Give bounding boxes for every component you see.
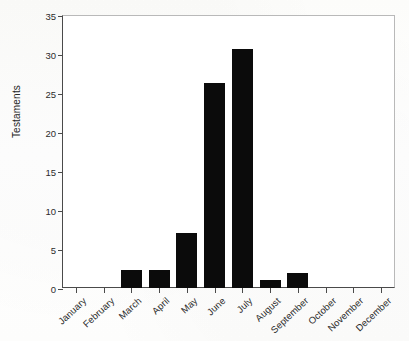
x-axis-tick-mark bbox=[131, 288, 132, 293]
y-axis-tick-mark bbox=[58, 94, 63, 95]
bar[interactable] bbox=[121, 270, 142, 288]
y-axis-tick: 5 bbox=[51, 241, 63, 259]
x-axis-tick-mark bbox=[353, 288, 354, 293]
y-axis-tick-label: 20 bbox=[45, 128, 56, 139]
bar[interactable] bbox=[176, 233, 197, 288]
x-axis-tick-label-text: May bbox=[179, 295, 200, 315]
y-axis-tick-label: 25 bbox=[45, 89, 56, 100]
x-axis-tick-mark bbox=[298, 288, 299, 293]
bar[interactable] bbox=[232, 49, 253, 288]
y-axis-tick: 10 bbox=[45, 202, 63, 220]
x-axis-tick-mark bbox=[104, 288, 105, 293]
y-axis-tick-mark bbox=[58, 133, 63, 134]
x-axis-tick-mark bbox=[326, 288, 327, 293]
y-axis-tick-label: 15 bbox=[45, 167, 56, 178]
x-axis-tick-label: April bbox=[150, 295, 172, 316]
bar[interactable] bbox=[287, 273, 308, 288]
y-axis-tick-label: 35 bbox=[45, 11, 56, 22]
y-axis-tick-label: 5 bbox=[51, 245, 56, 256]
plot-area: 05101520253035 bbox=[62, 15, 395, 288]
bar[interactable] bbox=[149, 270, 170, 288]
y-axis-tick: 35 bbox=[45, 7, 63, 25]
y-axis-tick-label: 10 bbox=[45, 206, 56, 217]
y-axis-tick: 25 bbox=[45, 85, 63, 103]
y-axis-tick-mark bbox=[58, 211, 63, 212]
y-axis-tick-mark bbox=[58, 289, 63, 290]
bar[interactable] bbox=[204, 83, 225, 288]
y-axis-tick-mark bbox=[58, 16, 63, 17]
y-axis-tick: 0 bbox=[51, 280, 63, 298]
y-axis-title: Testaments bbox=[11, 52, 22, 172]
x-axis-tick-mark bbox=[242, 288, 243, 293]
x-axis-tick-label-text: July bbox=[235, 295, 255, 315]
y-axis-tick: 15 bbox=[45, 163, 63, 181]
x-axis-tick-mark bbox=[270, 288, 271, 293]
x-axis-tick-label-text: April bbox=[150, 295, 172, 316]
y-axis-tick: 20 bbox=[45, 124, 63, 142]
x-axis-tick-label: May bbox=[179, 295, 200, 315]
x-axis-tick-mark bbox=[381, 288, 382, 293]
x-axis-tick-mark bbox=[187, 288, 188, 293]
x-axis-tick-label: July bbox=[235, 295, 255, 315]
bar-slot bbox=[229, 15, 257, 288]
bar[interactable] bbox=[260, 280, 281, 288]
x-axis-tick-mark bbox=[159, 288, 160, 293]
y-axis-tick-mark bbox=[58, 250, 63, 251]
x-axis-tick-label-text: March bbox=[117, 295, 144, 321]
y-axis-tick-label: 30 bbox=[45, 50, 56, 61]
x-axis-tick-label: March bbox=[117, 295, 144, 321]
x-axis-tick-mark bbox=[215, 288, 216, 293]
x-axis-tick-label: June bbox=[204, 295, 227, 317]
y-axis-tick: 30 bbox=[45, 46, 63, 64]
bar-chart-figure: Testaments 05101520253035 JanuaryFebruar… bbox=[0, 0, 409, 341]
y-axis-tick-mark bbox=[58, 55, 63, 56]
y-axis-tick-label: 0 bbox=[51, 284, 56, 295]
y-axis-tick-mark bbox=[58, 172, 63, 173]
x-axis-tick-label-text: June bbox=[204, 295, 227, 317]
x-axis-tick-mark bbox=[76, 288, 77, 293]
